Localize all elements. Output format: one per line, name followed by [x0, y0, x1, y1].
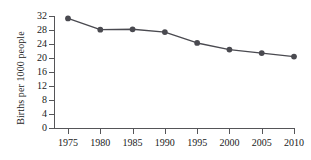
- data-point: [97, 27, 103, 33]
- data-point: [162, 29, 168, 35]
- data-point: [130, 26, 136, 32]
- data-point: [259, 50, 265, 56]
- data-point: [291, 54, 297, 60]
- data-point: [194, 40, 200, 46]
- chart-figure: Births per 1000 people 04812162024283219…: [0, 0, 311, 160]
- data-point: [227, 47, 233, 53]
- data-point: [65, 16, 71, 22]
- data-series-layer: [0, 0, 311, 160]
